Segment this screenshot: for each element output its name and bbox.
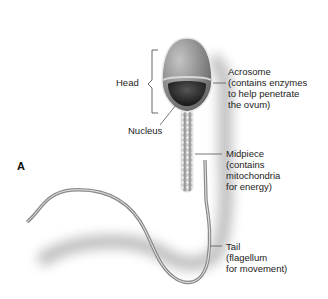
sperm-head bbox=[162, 38, 212, 112]
nucleus-label: Nucleus bbox=[128, 125, 162, 136]
acrosome-desc-1: (contains enzymes bbox=[228, 77, 307, 88]
midpiece bbox=[181, 108, 193, 192]
head-bracket bbox=[148, 50, 158, 113]
tail-desc-1: (flagellum bbox=[226, 252, 287, 263]
panel-letter: A bbox=[17, 160, 25, 172]
acrosome-desc-2: to help penetrate bbox=[228, 88, 307, 99]
tail-label: Tail (flagellum for movement) bbox=[226, 241, 287, 274]
midpiece-desc-1: (contains bbox=[226, 159, 280, 170]
tail-title: Tail bbox=[226, 241, 287, 252]
midpiece-label: Midpiece (contains mitochondria for ener… bbox=[226, 148, 280, 192]
midpiece-title: Midpiece bbox=[226, 148, 280, 159]
nucleus-leader-line bbox=[160, 105, 176, 125]
sperm-cell-diagram: Head Nucleus Acrosome (contains enzymes … bbox=[0, 0, 328, 299]
tail-desc-2: for movement) bbox=[226, 263, 287, 274]
acrosome-title: Acrosome bbox=[228, 66, 307, 77]
head-label: Head bbox=[116, 77, 139, 88]
acrosome-label: Acrosome (contains enzymes to help penet… bbox=[228, 66, 307, 110]
midpiece-desc-2: mitochondria bbox=[226, 170, 280, 181]
acrosome-desc-3: the ovum) bbox=[228, 99, 307, 110]
midpiece-desc-3: for energy) bbox=[226, 181, 280, 192]
